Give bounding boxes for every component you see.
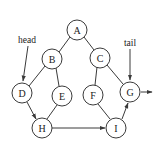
edge-c-f — [95, 67, 97, 85]
edge-a-c — [84, 37, 94, 50]
node-f: F — [83, 85, 103, 105]
node-a: A — [67, 20, 87, 40]
node-g-label: G — [126, 87, 133, 98]
node-f-label: F — [90, 90, 96, 101]
head-pointer: head — [18, 35, 36, 81]
node-h-label: H — [38, 123, 45, 134]
arrow-i-to-g — [122, 103, 128, 119]
node-e-label: E — [59, 91, 65, 102]
edge-e-h — [47, 105, 57, 119]
node-b: B — [42, 49, 62, 69]
edge-b-d — [29, 66, 45, 86]
node-i: I — [106, 118, 126, 138]
head-arrow — [23, 46, 28, 81]
node-g: G — [120, 82, 140, 102]
node-e: E — [52, 86, 72, 106]
diagram-canvas: head tail A B C D — [0, 0, 163, 154]
node-c-label: C — [97, 53, 104, 64]
node-c: C — [90, 48, 110, 68]
node-a-label: A — [73, 25, 81, 36]
edge-a-b — [59, 37, 70, 52]
node-d: D — [12, 83, 32, 103]
node-d-label: D — [18, 88, 25, 99]
edge-c-g — [107, 65, 123, 84]
tail-label: tail — [124, 38, 136, 48]
node-i-label: I — [114, 123, 117, 134]
head-label: head — [18, 35, 36, 45]
edge-f-i — [98, 104, 110, 119]
tail-pointer: tail — [124, 38, 136, 80]
node-b-label: B — [49, 54, 56, 65]
node-h: H — [32, 118, 52, 138]
arrow-d-to-h — [27, 102, 36, 119]
binary-tree-diagram: head tail A B C D — [0, 0, 163, 154]
tree-edges — [29, 37, 123, 119]
edge-b-e — [56, 68, 59, 86]
